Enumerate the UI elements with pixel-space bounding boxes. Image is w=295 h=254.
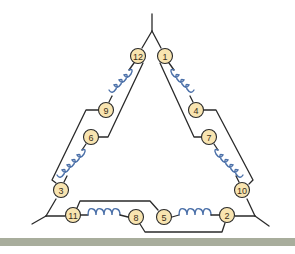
terminal-2: 2 [220,208,235,223]
svg-text:12: 12 [133,52,143,62]
svg-text:8: 8 [133,213,138,223]
terminal-4: 4 [189,103,204,118]
right-upper-coil-1-4 [169,63,194,102]
terminal-8: 8 [129,210,144,225]
terminal-10: 10 [235,183,250,198]
right-lower-coil-7-10 [214,144,243,182]
svg-text:4: 4 [193,106,198,116]
right-line-lead [235,199,269,226]
inner-wire-1-to-7 [160,63,201,137]
svg-text:10: 10 [237,186,247,196]
terminal-1: 1 [158,49,173,64]
terminal-12: 12 [131,49,146,64]
svg-text:6: 6 [88,133,93,143]
inner-wire-12-to-6 [99,63,143,137]
svg-text:7: 7 [206,133,211,143]
svg-text:1: 1 [162,52,167,62]
terminal-9: 9 [99,103,114,118]
left-outer-wire-9-3 [52,110,98,183]
terminal-6: 6 [84,130,99,145]
left-upper-coil-12-9 [109,63,134,102]
terminal-7: 7 [202,130,217,145]
svg-text:11: 11 [68,211,77,221]
bottom-left-coil-11-8 [81,209,128,217]
delta-winding-diagram: 12 1 9 4 6 7 3 10 11 8 5 2 [0,0,295,254]
left-line-lead [32,199,65,224]
top-line-lead [142,14,161,48]
bottom-lower-wire-8-to-2 [140,223,225,232]
left-lower-coil-6-3 [57,144,86,182]
svg-text:9: 9 [103,106,108,116]
svg-text:3: 3 [58,186,63,196]
svg-text:2: 2 [224,211,229,221]
bottom-right-coil-5-2 [172,209,219,217]
terminal-11: 11 [66,208,81,223]
bottom-divider-bar [0,238,295,246]
svg-text:5: 5 [161,213,166,223]
terminal-3: 3 [54,183,69,198]
terminal-5: 5 [157,210,172,225]
right-outer-wire-4-10 [204,110,253,184]
